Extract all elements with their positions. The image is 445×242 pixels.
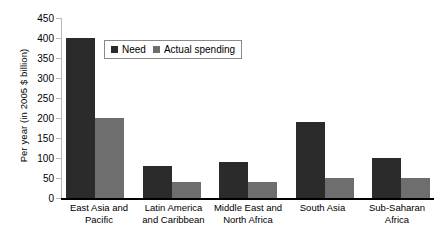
bar (219, 162, 248, 198)
x-axis-category-label-line: South Asia (286, 202, 360, 214)
y-axis-title: Per year (in 2005 $ billion) (18, 21, 29, 191)
y-axis-tick-label: 100 (20, 153, 54, 164)
bar-group (368, 18, 434, 198)
bar (248, 182, 277, 198)
x-axis-category-label-line: Sub-Saharan (360, 202, 434, 214)
y-axis-tick-label: 300 (20, 73, 54, 84)
x-axis-category-label: Sub-SaharanAfrica (360, 202, 434, 225)
x-axis-category-label: East Asia andPacific (62, 202, 136, 225)
x-axis-category-label-line: East Asia and (62, 202, 136, 214)
x-axis-category-label: South Asia (286, 202, 360, 225)
bar (172, 182, 201, 198)
y-axis-tick-label: 350 (20, 53, 54, 64)
x-axis-category-label-line: Latin America (137, 202, 211, 214)
legend-swatch-icon (111, 46, 118, 53)
bar-group (292, 18, 358, 198)
x-axis-category-labels: East Asia andPacificLatin Americaand Car… (62, 202, 434, 225)
x-axis-category-label: Latin Americaand Caribbean (137, 202, 211, 225)
legend-label: Actual spending (164, 44, 235, 55)
bar (325, 178, 354, 198)
bar (401, 178, 430, 198)
y-axis-tick-label: 50 (20, 173, 54, 184)
bar (66, 38, 95, 198)
y-axis-tick-label: 200 (20, 113, 54, 124)
x-axis-category-label-line: North Africa (211, 214, 285, 226)
legend-label: Need (122, 44, 146, 55)
y-axis-tick-label: 400 (20, 33, 54, 44)
x-axis-category-label-line: Middle East and (211, 202, 285, 214)
x-axis-category-label-line: Pacific (62, 214, 136, 226)
bar-chart: Per year (in 2005 $ billion) 05010015020… (0, 0, 445, 242)
bar (95, 118, 124, 198)
legend-swatch-icon (153, 46, 160, 53)
y-axis-tick-label: 0 (20, 193, 54, 204)
y-axis-tick-label: 250 (20, 93, 54, 104)
bar (372, 158, 401, 198)
x-axis-category-label-line: Africa (360, 214, 434, 226)
chart-legend: NeedActual spending (104, 40, 242, 59)
legend-item: Actual spending (153, 44, 235, 55)
x-axis-line (61, 198, 434, 200)
y-axis-tick-label: 150 (20, 133, 54, 144)
bar (296, 122, 325, 198)
legend-item: Need (111, 44, 146, 55)
y-axis-tick-label: 450 (20, 13, 54, 24)
bar (143, 166, 172, 198)
x-axis-category-label: Middle East andNorth Africa (211, 202, 285, 225)
x-axis-category-label-line: and Caribbean (137, 214, 211, 226)
